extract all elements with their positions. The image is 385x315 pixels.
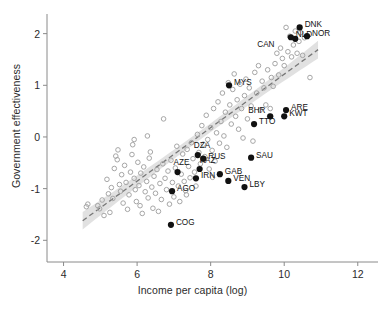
filled-circle-points [168,24,310,228]
point-label-ven: VEN [233,174,250,183]
point-label-kaz: KAZ [200,156,216,165]
y-tick-neg2: -2 [9,234,40,246]
point-label-can: CAN [257,40,274,49]
x-axis-title: Income per capita (log) [0,284,385,296]
point-label-mys: MYS [234,78,252,87]
point-label-nor: NOR [312,29,330,38]
point-label-ago: AGO [177,184,195,193]
x-tick-8: 8 [208,268,214,280]
figure-container: 4681012 210-1-2 DNKNORNLDCANMYSAREBHRKWT… [0,0,385,315]
point-label-tto: TTO [259,117,275,126]
point-label-irn: IRN [201,171,215,180]
figure-caption [0,303,385,315]
point-label-kwt: KWT [289,109,307,118]
scatter-plot-canvas [0,0,385,315]
point-label-bhr: BHR [248,106,265,115]
x-tick-10: 10 [278,268,290,280]
point-label-cog: COG [176,218,195,227]
point-label-dza: DZA [194,141,210,150]
x-tick-12: 12 [352,268,364,280]
x-tick-4: 4 [61,268,67,280]
x-tick-6: 6 [134,268,140,280]
point-label-lby: LBY [249,180,264,189]
axis-lines [43,14,378,266]
point-label-dnk: DNK [305,20,322,29]
point-label-aze: AZE [174,158,190,167]
y-tick-2: 2 [9,28,40,40]
y-axis-title: Government effectiveness [10,46,22,206]
point-label-nld: NLD [296,30,312,39]
point-label-sau: SAU [256,151,273,160]
